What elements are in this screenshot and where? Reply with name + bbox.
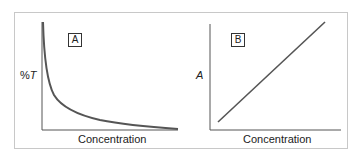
- charts-svg: [0, 0, 361, 155]
- panel-b-xlabel: Concentration: [243, 133, 312, 145]
- panel-a-axes: [42, 22, 178, 130]
- panel-a-curve: [43, 22, 178, 129]
- panel-a-xlabel: Concentration: [78, 133, 147, 145]
- panel-b-tag: B: [231, 33, 245, 47]
- panel-b-axes: [210, 24, 341, 130]
- panel-a-ylabel: %T: [20, 69, 37, 81]
- panel-a-tag: A: [68, 33, 82, 47]
- panel-b-ylabel: A: [196, 69, 203, 81]
